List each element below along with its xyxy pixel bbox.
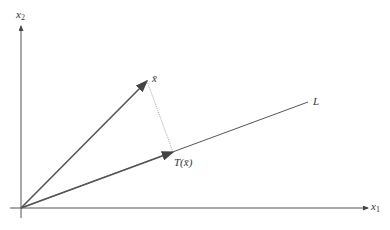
x1-axis-label: x1 xyxy=(371,200,380,214)
x2-axis-label: x2 xyxy=(16,8,25,22)
vector-x-label: x̄ xyxy=(152,72,157,84)
perpendicular-line xyxy=(147,81,173,152)
line-L-label: L xyxy=(313,95,319,107)
projection-vector-arrow xyxy=(21,152,173,208)
projection-diagram xyxy=(0,0,390,230)
projection-label: T(x̄) xyxy=(174,156,192,168)
vector-x-arrow xyxy=(21,81,147,208)
